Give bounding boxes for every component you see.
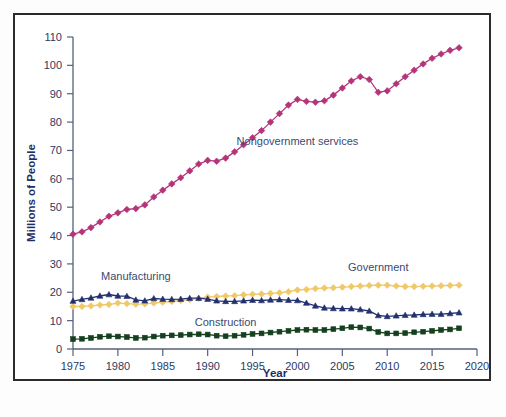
data-point-marker — [367, 326, 372, 331]
data-point-marker — [402, 283, 409, 290]
data-point-marker — [429, 55, 436, 62]
y-tick-label: 80 — [50, 116, 62, 128]
data-point-marker — [322, 328, 327, 333]
data-point-marker — [268, 330, 273, 335]
data-point-marker — [106, 301, 113, 308]
y-tick-label: 100 — [44, 59, 62, 71]
data-point-marker — [286, 328, 291, 333]
data-point-marker — [331, 327, 336, 332]
data-point-marker — [358, 325, 363, 330]
series-line — [73, 327, 459, 339]
data-point-marker — [429, 283, 436, 290]
data-point-marker — [98, 334, 103, 339]
data-point-marker — [430, 328, 435, 333]
data-point-marker — [439, 328, 444, 333]
data-point-marker — [213, 158, 220, 165]
data-point-marker — [375, 282, 382, 289]
y-tick-label: 20 — [50, 286, 62, 298]
data-point-marker — [312, 99, 319, 106]
employment-line-chart: 0102030405060708090100110 Millions of Pe… — [15, 15, 489, 379]
data-point-marker — [89, 336, 94, 341]
x-tick-label: 2020 — [465, 360, 489, 372]
x-tick-label: 1985 — [151, 360, 175, 372]
data-point-marker — [142, 335, 147, 340]
x-axis-group: 1975198019851990199520002005201020152020… — [61, 349, 489, 379]
data-point-marker — [196, 332, 201, 337]
data-point-marker — [448, 327, 453, 332]
data-point-marker — [348, 283, 355, 290]
data-point-marker — [303, 98, 310, 105]
data-point-marker — [457, 326, 462, 331]
y-tick-label: 110 — [44, 31, 62, 43]
series-label: Construction — [195, 316, 257, 328]
data-point-marker — [97, 302, 104, 309]
series-layer — [70, 44, 463, 341]
data-point-marker — [106, 291, 112, 296]
data-point-marker — [313, 328, 318, 333]
data-point-marker — [312, 285, 319, 292]
chart-frame-border: 0102030405060708090100110 Millions of Pe… — [13, 13, 491, 381]
data-point-marker — [349, 325, 354, 330]
data-point-marker — [421, 329, 426, 334]
data-point-marker — [303, 286, 310, 293]
series-line — [73, 295, 459, 317]
data-point-marker — [88, 303, 95, 310]
x-tick-label: 2000 — [285, 360, 309, 372]
data-point-marker — [133, 336, 138, 341]
data-point-marker — [80, 336, 85, 341]
data-point-marker — [232, 333, 237, 338]
data-point-marker — [107, 334, 112, 339]
data-point-marker — [70, 303, 77, 310]
data-point-marker — [223, 334, 228, 339]
data-point-marker — [106, 213, 113, 220]
y-tick-label: 90 — [50, 88, 62, 100]
data-point-marker — [321, 285, 328, 292]
data-point-marker — [187, 332, 192, 337]
data-point-marker — [456, 44, 463, 51]
data-point-marker — [178, 333, 183, 338]
data-point-marker — [258, 291, 265, 298]
data-point-marker — [88, 224, 95, 231]
x-tick-label: 2015 — [420, 360, 444, 372]
data-point-marker — [97, 219, 104, 226]
data-point-marker — [456, 282, 463, 289]
y-tick-label: 40 — [50, 230, 62, 242]
data-point-marker — [267, 290, 274, 297]
data-point-marker — [403, 331, 408, 336]
data-point-marker — [250, 332, 255, 337]
data-point-marker — [204, 157, 211, 164]
data-point-marker — [420, 283, 427, 290]
figure-container: 0102030405060708090100110 Millions of Pe… — [0, 0, 506, 417]
data-point-marker — [357, 283, 364, 290]
data-point-marker — [115, 210, 122, 217]
data-point-marker — [357, 73, 364, 80]
data-point-marker — [340, 326, 345, 331]
data-point-marker — [330, 284, 337, 291]
series-label: Nongovernment services — [237, 135, 359, 147]
data-point-marker — [276, 290, 283, 297]
y-axis-group: 0102030405060708090100110 Millions of Pe… — [25, 31, 73, 355]
data-point-marker — [277, 329, 282, 334]
data-point-marker — [79, 303, 86, 310]
data-point-marker — [339, 284, 346, 291]
series-construction — [71, 325, 462, 342]
series-annotations: Nongovernment servicesGovernmentManufact… — [101, 135, 409, 328]
y-axis-title: Millions of People — [25, 144, 37, 242]
data-point-marker — [384, 282, 391, 289]
data-point-marker — [124, 300, 131, 307]
data-point-marker — [295, 328, 300, 333]
y-tick-label: 60 — [50, 173, 62, 185]
data-point-marker — [304, 327, 309, 332]
y-tick-label: 0 — [56, 343, 62, 355]
y-tick-label: 50 — [50, 201, 62, 213]
data-point-marker — [447, 47, 454, 54]
x-tick-label: 1990 — [195, 360, 219, 372]
data-point-marker — [411, 283, 418, 290]
data-point-marker — [393, 283, 400, 290]
y-axis-ticks: 0102030405060708090100110 — [44, 31, 73, 355]
y-tick-label: 70 — [50, 144, 62, 156]
x-tick-label: 2005 — [330, 360, 354, 372]
y-tick-label: 10 — [50, 315, 62, 327]
x-axis-title: Year — [263, 367, 288, 379]
data-point-marker — [366, 282, 373, 289]
